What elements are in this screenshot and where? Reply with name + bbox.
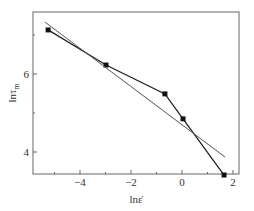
y-axis-label: lnτm <box>6 83 21 103</box>
linear-fit-line <box>45 22 225 157</box>
y-axis-label-sub: m <box>12 83 21 90</box>
data-point-marker <box>162 91 167 96</box>
x-tick-label: 0 <box>179 176 185 188</box>
y-tick-label: 6 <box>24 68 30 80</box>
x-axis-label: lnε̇ <box>129 193 143 205</box>
data-point-marker <box>181 116 186 121</box>
ticks <box>33 35 233 174</box>
x-tick-label: −4 <box>74 176 86 188</box>
series <box>45 22 227 177</box>
y-axis-label-main: lnτ <box>6 89 18 103</box>
x-tick-label: −2 <box>125 176 137 188</box>
data-point-marker <box>46 27 51 32</box>
chart: −4−20246 lnε̇ lnτm <box>0 0 254 211</box>
y-tick-label: 4 <box>24 146 30 158</box>
experimental-line <box>48 30 224 175</box>
svg-text:lnτm: lnτm <box>6 83 21 103</box>
data-point-marker <box>222 173 227 178</box>
x-tick-label: 2 <box>230 176 236 188</box>
